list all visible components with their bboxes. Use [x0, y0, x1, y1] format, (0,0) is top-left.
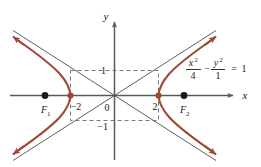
- vertex-left-point: [67, 92, 73, 98]
- figure-canvas: y x 0 −2 2 1 −1 F 1 F 2 x 2 4 − y 2: [0, 0, 261, 167]
- equation-numerator-2-exponent: 2: [219, 56, 222, 63]
- vertex-right-point: [155, 92, 161, 98]
- arrow-right-upper: [205, 37, 216, 46]
- focus-2-point: [181, 92, 188, 99]
- focus-1-point: [42, 92, 49, 99]
- equation-equals-sign: =: [231, 63, 237, 74]
- equation-denominator-2: 1: [216, 70, 221, 81]
- focus-2-subscript: 2: [186, 110, 190, 118]
- equation-right-side: 1: [242, 63, 247, 74]
- x-tick-2-label: 2: [153, 101, 158, 112]
- y-tick-neg1-label: −1: [97, 121, 108, 132]
- x-tick-neg2-label: −2: [71, 101, 82, 112]
- focus-1-label-group: F 1: [40, 104, 51, 118]
- equation-group: x 2 4 − y 2 1 = 1: [186, 56, 247, 81]
- equation-numerator-1: x: [188, 57, 194, 68]
- equation-denominator-1: 4: [191, 70, 196, 81]
- focus-2-label-group: F 2: [179, 104, 190, 118]
- origin-label: 0: [105, 102, 110, 113]
- hyperbola-figure: y x 0 −2 2 1 −1 F 1 F 2 x 2 4 − y 2: [0, 0, 261, 167]
- arrow-left-lower: [13, 146, 24, 155]
- equation-numerator-2: y: [213, 57, 219, 68]
- y-tick-1-label: 1: [101, 65, 106, 76]
- y-axis-label: y: [103, 10, 109, 22]
- equation-numerator-1-exponent: 2: [194, 56, 197, 63]
- equation-operator: −: [204, 63, 210, 74]
- arrow-left-upper: [13, 37, 24, 46]
- focus-1-subscript: 1: [47, 110, 51, 118]
- x-axis-label: x: [242, 89, 248, 101]
- arrow-right-lower: [205, 146, 216, 155]
